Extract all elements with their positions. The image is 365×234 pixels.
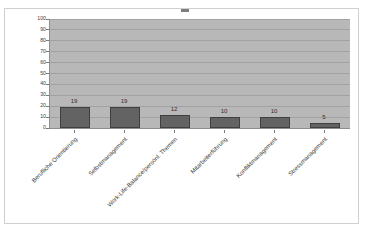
bar-value-label: 5 — [322, 114, 325, 120]
bar-value-label: 19 — [71, 98, 78, 104]
x-axis-tick-mark — [174, 130, 175, 133]
x-axis-category-text: Berufliche Orientierung — [31, 136, 79, 184]
x-axis-tick-mark — [74, 130, 75, 133]
gridline — [50, 95, 350, 96]
y-axis-tick-mark — [46, 19, 49, 20]
y-axis-tick-mark — [46, 95, 49, 96]
x-axis-tick-mark — [324, 130, 325, 133]
x-axis-category-text: Mitarbeiterführung — [190, 136, 229, 175]
gridline — [50, 84, 350, 85]
x-axis-tick-mark — [224, 130, 225, 133]
y-axis-tick-label: 100 — [37, 16, 46, 21]
bar-value-label: 10 — [221, 108, 228, 114]
x-axis-labels: Berufliche OrientierungSelbstmanagementW… — [49, 130, 350, 222]
chart-frame: 1009080706050403020100 Berufliche Orient… — [4, 8, 359, 224]
gridline — [50, 40, 350, 41]
y-axis-tick-mark — [46, 128, 49, 129]
gridline — [50, 51, 350, 52]
y-axis-tick-mark — [46, 73, 49, 74]
gridline — [50, 29, 350, 30]
bar-value-label: 12 — [171, 106, 178, 112]
x-axis-category-text: Selbstmanagement — [87, 136, 128, 177]
x-axis-category-text: Stressmanagement — [287, 136, 328, 177]
x-axis-tick-mark — [274, 130, 275, 133]
gridline — [50, 62, 350, 63]
y-axis-tick-mark — [46, 117, 49, 118]
y-axis-tick-mark — [46, 40, 49, 41]
bar-value-label: 10 — [271, 108, 278, 114]
gridline — [50, 73, 350, 74]
gridline — [50, 19, 350, 20]
x-axis-category-text: Konfliktmanagement — [235, 136, 278, 179]
x-axis-tick-mark — [124, 130, 125, 133]
bar-value-label: 19 — [121, 98, 128, 104]
top-cropped-artifact — [181, 9, 189, 12]
y-axis-tick-mark — [46, 29, 49, 30]
y-axis-tick-mark — [46, 62, 49, 63]
y-axis-tick-mark — [46, 84, 49, 85]
y-axis-tick-mark — [46, 51, 49, 52]
y-axis-tick-mark — [46, 106, 49, 107]
